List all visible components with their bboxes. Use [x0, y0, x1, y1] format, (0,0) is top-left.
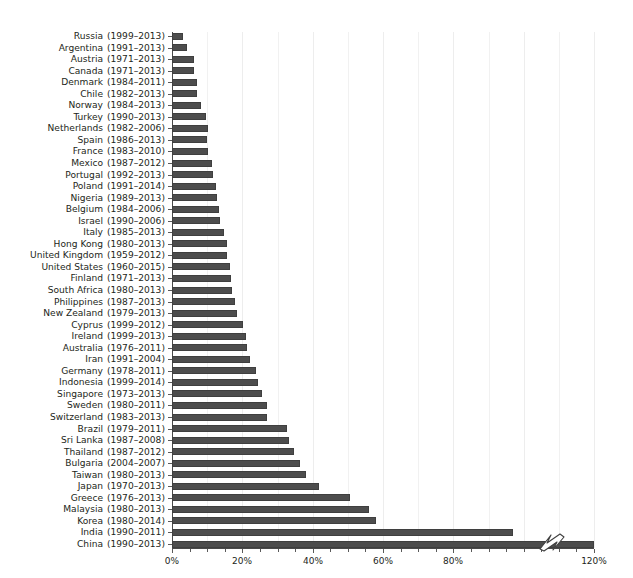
y-axis-label: Greece(1976–2013) — [15, 493, 167, 503]
country-name: France — [15, 146, 103, 156]
country-period: (1973–2013) — [107, 389, 167, 399]
bar — [172, 287, 232, 294]
y-axis-label: Israel(1990–2006) — [15, 216, 167, 226]
y-axis-label: Nigeria(1989–2013) — [15, 193, 167, 203]
country-name: Nigeria — [15, 193, 103, 203]
country-name: Iran — [15, 354, 103, 364]
bar — [172, 379, 258, 386]
country-period: (1987–2012) — [107, 158, 167, 168]
country-name: Switzerland — [15, 412, 103, 422]
country-name: Belgium — [15, 204, 103, 214]
country-period: (1980–2013) — [107, 285, 167, 295]
plot-area: Russia(1999–2013)Argentina(1991–2013)Aus… — [0, 10, 633, 578]
bar — [172, 471, 306, 478]
y-axis-label: Belgium(1984–2006) — [15, 204, 167, 214]
country-name: Korea — [15, 516, 103, 526]
country-name: Denmark — [15, 77, 103, 87]
country-period: (1980–2013) — [107, 504, 167, 514]
country-name: Argentina — [15, 43, 103, 53]
chart-page: (a truncated caption line, clipped at th… — [0, 0, 633, 578]
country-period: (1980–2011) — [107, 400, 167, 410]
bar — [172, 448, 294, 455]
gridline — [594, 32, 595, 548]
country-period: (1985–2013) — [107, 227, 167, 237]
bar — [172, 67, 194, 74]
x-axis-tick-minor — [278, 549, 279, 552]
country-name: United States — [15, 262, 103, 272]
bar — [172, 437, 289, 444]
x-axis-tick-minor — [436, 549, 437, 552]
country-period: (1999–2014) — [107, 377, 167, 387]
country-period: (1979–2011) — [107, 424, 167, 434]
x-axis-tick-major — [313, 549, 314, 553]
country-name: Cyprus — [15, 320, 103, 330]
gridline — [313, 32, 314, 548]
country-name: Mexico — [15, 158, 103, 168]
country-period: (1999–2012) — [107, 320, 167, 330]
bar — [172, 125, 208, 132]
bar — [172, 56, 194, 63]
bar — [172, 298, 235, 305]
y-axis-label: New Zealand(1979–2013) — [15, 308, 167, 318]
bar — [172, 402, 267, 409]
bar — [172, 206, 219, 213]
country-period: (1976–2011) — [107, 343, 167, 353]
country-period: (1984–2011) — [107, 77, 167, 87]
country-period: (1983–2010) — [107, 146, 167, 156]
x-axis-tick-minor — [524, 549, 525, 552]
y-axis-label: Ireland(1999–2013) — [15, 331, 167, 341]
bar — [172, 194, 217, 201]
country-name: Austria — [15, 54, 103, 64]
y-axis-label: Japan(1970–2013) — [15, 481, 167, 491]
x-axis-tick-minor — [190, 549, 191, 552]
bar — [172, 390, 262, 397]
y-axis-label: Spain(1986–2013) — [15, 135, 167, 145]
country-period: (1971–2013) — [107, 66, 167, 76]
country-period: (1989–2013) — [107, 193, 167, 203]
country-period: (1978–2011) — [107, 366, 167, 376]
country-period: (1987–2008) — [107, 435, 167, 445]
x-axis-tick-minor — [207, 549, 208, 552]
country-name: Sweden — [15, 400, 103, 410]
country-name: Australia — [15, 343, 103, 353]
x-axis-tick-minor — [295, 549, 296, 552]
country-period: (1980–2013) — [107, 470, 167, 480]
country-name: Israel — [15, 216, 103, 226]
country-name: China — [15, 539, 103, 549]
country-period: (1984–2013) — [107, 100, 167, 110]
x-axis-tick-minor — [260, 549, 261, 552]
bar — [172, 275, 231, 282]
x-axis-tick-minor — [506, 549, 507, 552]
x-axis-tick-minor — [418, 549, 419, 552]
country-period: (1991–2013) — [107, 43, 167, 53]
country-name: Singapore — [15, 389, 103, 399]
country-period: (1976–2013) — [107, 493, 167, 503]
bar — [172, 217, 220, 224]
country-period: (1999–2013) — [107, 31, 167, 41]
bar — [172, 333, 246, 340]
figure-caption-text: (a truncated caption line, clipped at th… — [118, 0, 618, 1]
gridline — [348, 32, 349, 548]
gridline — [418, 32, 419, 548]
country-name: South Africa — [15, 285, 103, 295]
gridline — [489, 32, 490, 548]
country-name: Hong Kong — [15, 239, 103, 249]
bar — [172, 483, 319, 490]
y-axis-label: Singapore(1973–2013) — [15, 389, 167, 399]
x-axis-tick-minor — [225, 549, 226, 552]
bar — [172, 136, 207, 143]
x-axis-tick-minor — [330, 549, 331, 552]
bar — [172, 252, 227, 259]
bar-chart: Russia(1999–2013)Argentina(1991–2013)Aus… — [0, 10, 633, 578]
x-axis-tick-minor — [576, 549, 577, 552]
country-period: (1990–2011) — [107, 527, 167, 537]
country-name: Turkey — [15, 112, 103, 122]
x-axis-tick-minor — [559, 549, 560, 552]
y-axis-label: Netherlands(1982–2006) — [15, 123, 167, 133]
bar — [172, 229, 224, 236]
gridline — [559, 32, 560, 548]
gridline — [524, 32, 525, 548]
country-period: (1971–2013) — [107, 54, 167, 64]
y-axis-label: Portugal(1992–2013) — [15, 170, 167, 180]
country-name: Poland — [15, 181, 103, 191]
